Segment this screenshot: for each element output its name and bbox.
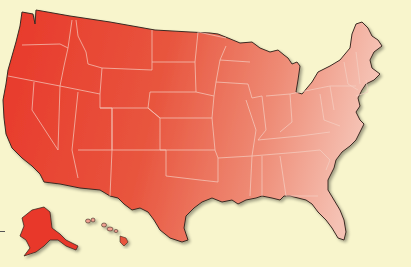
edge-mark bbox=[0, 231, 5, 232]
alaska bbox=[20, 207, 78, 256]
contiguous-us bbox=[3, 10, 382, 242]
hawaii bbox=[86, 218, 129, 246]
us-map bbox=[0, 0, 411, 267]
